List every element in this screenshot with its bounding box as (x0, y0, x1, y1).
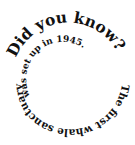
headline-text: Did you know? (2, 7, 129, 59)
spiral-svg: Did you know? The first whale sanctuary … (0, 0, 135, 145)
spiral-text-graphic: Did you know? The first whale sanctuary … (0, 0, 135, 145)
